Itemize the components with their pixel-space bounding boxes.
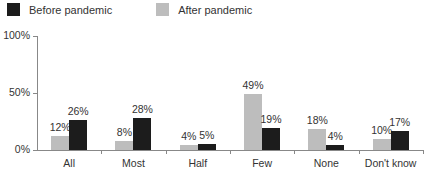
bar-value-label: 18%	[302, 114, 332, 126]
x-category-label: Half	[166, 157, 230, 169]
x-tick	[423, 150, 424, 154]
chart-legend: Before pandemic After pandemic	[7, 3, 296, 16]
bar-before-pandemic	[391, 131, 409, 150]
bar-value-label: 19%	[256, 113, 286, 125]
legend-item-before: Before pandemic	[7, 3, 112, 16]
bar-before-pandemic	[198, 144, 216, 150]
legend-label-after: After pandemic	[178, 4, 252, 16]
bar-before-pandemic	[133, 118, 151, 150]
bar-value-label: 49%	[238, 79, 268, 91]
x-category-label: Don't know	[359, 157, 423, 169]
bar-value-label: 4%	[320, 130, 350, 142]
bar-before-pandemic	[69, 120, 87, 150]
x-tick	[166, 150, 167, 154]
x-category-label: Most	[101, 157, 165, 169]
bar-before-pandemic	[326, 145, 344, 150]
legend-swatch-after	[156, 3, 169, 16]
bar-before-pandemic	[262, 128, 280, 150]
bar-value-label: 5%	[192, 129, 222, 141]
x-category-label: None	[294, 157, 358, 169]
bar-value-label: 28%	[127, 103, 157, 115]
bar-after-pandemic	[51, 136, 69, 150]
y-tick	[33, 36, 37, 37]
legend-item-after: After pandemic	[156, 3, 252, 16]
x-tick	[294, 150, 295, 154]
bar-after-pandemic	[180, 145, 198, 150]
legend-label-before: Before pandemic	[29, 4, 112, 16]
y-tick-label-100: 100%	[0, 29, 30, 41]
bar-after-pandemic	[115, 141, 133, 150]
bar-value-label: 17%	[385, 116, 415, 128]
y-tick-label-50: 50%	[0, 86, 30, 98]
y-axis	[37, 36, 38, 150]
legend-swatch-before	[7, 3, 20, 16]
y-tick-label-0: 0%	[0, 143, 30, 155]
x-category-label: Few	[230, 157, 294, 169]
bar-after-pandemic	[373, 139, 391, 150]
x-tick	[359, 150, 360, 154]
x-category-label: All	[37, 157, 101, 169]
x-tick	[230, 150, 231, 154]
bar-value-label: 26%	[63, 105, 93, 117]
y-tick	[33, 93, 37, 94]
x-tick	[101, 150, 102, 154]
